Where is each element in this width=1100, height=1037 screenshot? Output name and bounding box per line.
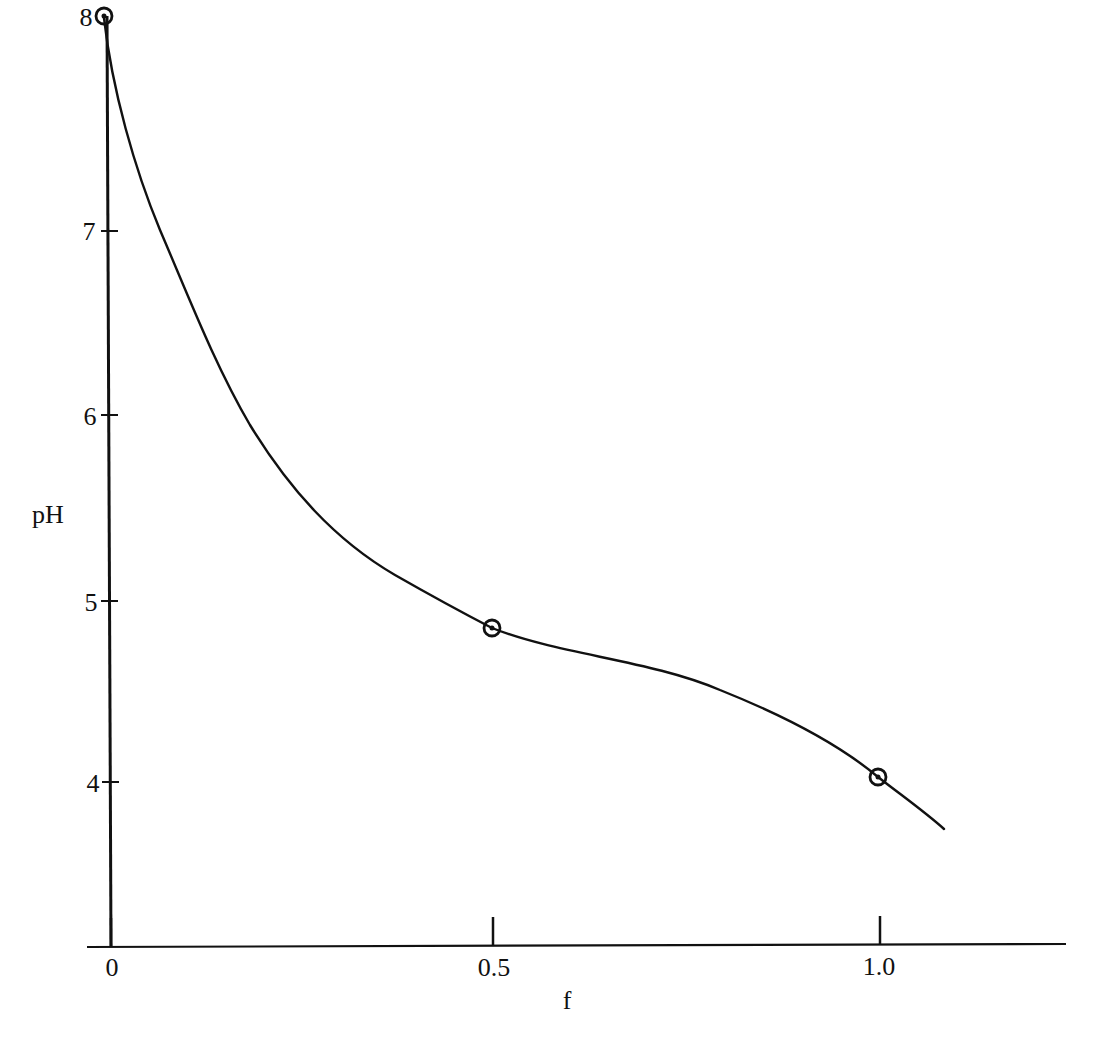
y-tick-label-6: 6 [84, 402, 97, 431]
y-tick-label-5: 5 [85, 588, 98, 617]
x-tick-label-0.5: 0.5 [478, 953, 511, 982]
x-axis-title: f [563, 986, 572, 1015]
marker-point-f1.0 [870, 769, 886, 785]
y-tick-label-4: 4 [87, 769, 100, 798]
x-tick-label-0: 0 [106, 953, 119, 982]
titration-curve [104, 18, 944, 829]
marker-point-f0.5 [484, 620, 500, 636]
x-tick-label-1.0: 1.0 [863, 952, 896, 981]
y-tick-label-8: 8 [80, 3, 93, 32]
y-tick-label-7: 7 [83, 217, 96, 246]
y-axis-title: pH [32, 500, 64, 529]
ph-titration-chart: 8 7 6 5 4 0 0.5 1.0 pH f [0, 0, 1100, 1037]
x-axis [87, 944, 1066, 947]
y-axis [107, 16, 111, 947]
